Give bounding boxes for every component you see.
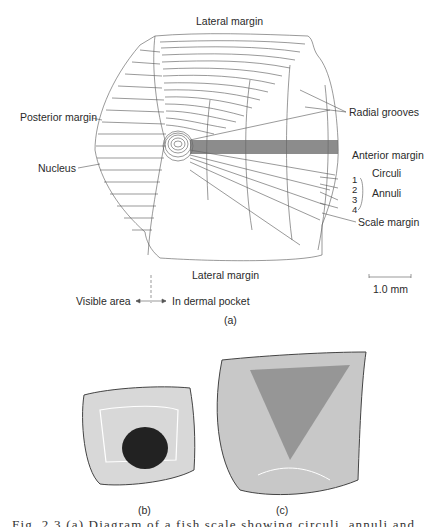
scale-diagram-a [0, 0, 443, 527]
label-radial-grooves: Radial grooves [349, 107, 419, 118]
label-annuli: Annuli [372, 188, 401, 199]
label-anterior-margin: Anterior margin [352, 150, 424, 161]
label-in-dermal-pocket: In dermal pocket [172, 296, 250, 307]
caption-text: Fig. 2.3 (a) Diagram of a fish scale sho… [0, 519, 443, 527]
label-visible-area: Visible area [76, 296, 131, 307]
panel-label-c: (c) [276, 505, 288, 516]
label-scale-margin: Scale margin [358, 217, 419, 228]
scale-drawing-c [217, 352, 366, 495]
label-lateral-margin-bottom: Lateral margin [192, 270, 259, 281]
scale-bar-label: 1.0 mm [373, 284, 408, 295]
panel-label-b: (b) [138, 505, 151, 516]
annulus-number-4: 4 [352, 205, 357, 215]
label-posterior-margin: Posterior margin [20, 112, 97, 123]
label-nucleus: Nucleus [38, 163, 76, 174]
caption-cutoff: Fig. 2.3 (a) Diagram of a fish scale sho… [0, 519, 443, 527]
label-circuli: Circuli [372, 168, 401, 179]
panel-label-a: (a) [224, 315, 237, 326]
scale-drawing-b [83, 387, 195, 485]
label-lateral-margin-top: Lateral margin [196, 16, 263, 27]
